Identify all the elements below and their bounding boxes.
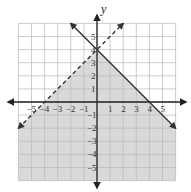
x-tick-label: −3	[53, 104, 63, 114]
y-tick-label: 3	[91, 58, 96, 68]
x-tick-label: −5	[27, 104, 37, 114]
coordinate-plane: −5−4−3−2−112345−5−4−3−2−112345 y	[0, 0, 191, 192]
y-tick-label: −3	[87, 136, 97, 146]
x-tick-label: 4	[147, 104, 152, 114]
y-tick-label: 4	[91, 45, 96, 55]
y-tick-label: −5	[87, 163, 97, 173]
x-tick-label: 3	[134, 104, 139, 114]
x-tick-label: −2	[66, 104, 76, 114]
y-tick-label: −2	[87, 123, 97, 133]
y-tick-label: 5	[91, 32, 96, 42]
y-tick-label: −4	[87, 149, 97, 159]
y-axis-label: y	[100, 2, 107, 16]
x-tick-label: 1	[108, 104, 113, 114]
x-tick-label: 5	[161, 104, 166, 114]
y-tick-label: −1	[87, 110, 97, 120]
y-tick-label: 2	[91, 71, 96, 81]
x-tick-label: 2	[121, 104, 126, 114]
x-tick-label: −4	[40, 104, 50, 114]
y-tick-label: 1	[91, 84, 96, 94]
